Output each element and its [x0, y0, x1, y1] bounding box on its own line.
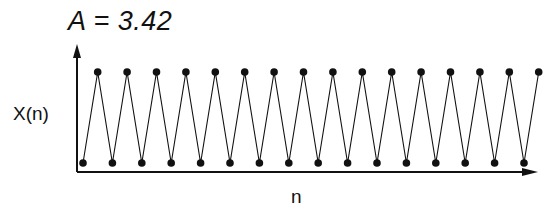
- data-point: [520, 159, 528, 167]
- data-point: [314, 159, 322, 167]
- plot-area: [0, 0, 554, 213]
- data-point: [212, 68, 220, 76]
- data-point: [226, 159, 234, 167]
- data-point: [182, 68, 190, 76]
- data-point: [447, 68, 455, 76]
- data-point: [461, 159, 469, 167]
- data-point: [491, 159, 499, 167]
- data-point: [388, 68, 396, 76]
- data-point: [417, 68, 425, 76]
- data-point: [300, 68, 308, 76]
- x-axis-arrow-icon: [522, 168, 538, 176]
- data-point: [138, 159, 146, 167]
- data-point: [344, 159, 352, 167]
- data-point: [241, 68, 249, 76]
- data-point: [153, 68, 161, 76]
- series-line: [83, 72, 539, 163]
- data-point: [123, 68, 131, 76]
- data-point: [359, 68, 367, 76]
- data-point: [403, 159, 411, 167]
- data-point: [432, 159, 440, 167]
- data-point: [373, 159, 381, 167]
- data-point: [476, 68, 484, 76]
- data-point: [506, 68, 514, 76]
- data-point: [285, 159, 293, 167]
- data-point: [109, 159, 117, 167]
- y-axis-arrow-icon: [73, 44, 81, 58]
- data-point: [79, 159, 87, 167]
- data-point: [167, 159, 175, 167]
- data-point: [329, 68, 337, 76]
- data-point: [197, 159, 205, 167]
- data-point: [535, 68, 543, 76]
- data-point: [256, 159, 264, 167]
- data-point: [94, 68, 102, 76]
- data-point: [270, 68, 278, 76]
